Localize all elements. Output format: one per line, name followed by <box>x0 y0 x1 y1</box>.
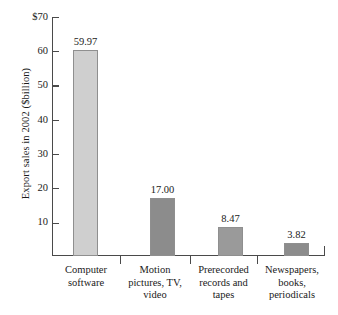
bar-newspapers-books[interactable] <box>284 243 309 256</box>
bar-value-label-3: 8.47 <box>203 213 258 224</box>
y-tick-70 <box>53 17 59 18</box>
category-label-prerecorded-records: Prerecorded records and tapes <box>190 264 257 302</box>
category-label-line-3: video <box>120 289 190 302</box>
category-separator-1 <box>120 256 121 264</box>
category-label-motion-pictures: Motion pictures, TV, video <box>120 264 190 302</box>
category-label-line-1: Newspapers, <box>257 264 327 277</box>
y-tick-40 <box>53 120 59 121</box>
bar-computer-software[interactable] <box>73 50 98 256</box>
y-tick-30 <box>53 154 59 155</box>
y-tick-label-10: 10 <box>0 217 48 227</box>
category-label-line-2: pictures, TV, <box>120 277 190 290</box>
x-axis-end-cap <box>324 246 325 256</box>
category-label-computer-software: Computer software <box>52 264 120 289</box>
bar-value-label-4: 3.82 <box>269 229 324 240</box>
y-tick-10 <box>53 223 59 224</box>
category-label-line-2: books, <box>257 277 327 290</box>
y-tick-label-30: 30 <box>0 149 48 159</box>
category-label-line-1: Motion <box>120 264 190 277</box>
y-tick-50 <box>53 85 59 86</box>
bar-value-label-2: 17.00 <box>135 184 190 195</box>
y-tick-60 <box>53 51 59 52</box>
clipped-caption <box>0 306 338 315</box>
bar-chart: Export sales in 2002 ($billion) $70 60 5… <box>0 0 338 315</box>
category-label-line-1: Computer <box>52 264 120 277</box>
category-separator-3 <box>257 256 258 264</box>
bar-value-label-1: 59.97 <box>58 36 113 47</box>
category-label-line-2: records and <box>190 277 257 290</box>
category-label-line-1: Prerecorded <box>190 264 257 277</box>
y-tick-label-50: 50 <box>0 80 48 90</box>
category-label-line-2: software <box>52 277 120 290</box>
category-label-line-3: tapes <box>190 289 257 302</box>
y-tick-label-60: 60 <box>0 46 48 56</box>
category-label-line-3: periodicals <box>257 289 327 302</box>
category-label-newspapers-books: Newspapers, books, periodicals <box>257 264 327 302</box>
y-tick-20 <box>53 188 59 189</box>
y-tick-label-40: 40 <box>0 115 48 125</box>
y-tick-label-70: $70 <box>0 12 48 22</box>
bar-prerecorded-records[interactable] <box>218 227 243 256</box>
bar-motion-pictures[interactable] <box>150 198 175 256</box>
y-tick-label-20: 20 <box>0 183 48 193</box>
y-axis-line <box>52 17 53 256</box>
category-separator-2 <box>190 256 191 264</box>
